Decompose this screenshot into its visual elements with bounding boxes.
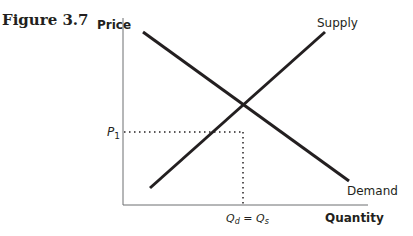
demand-curve [143, 32, 349, 181]
supply-demand-chart: Price Supply Demand Quantity P1 Qd = Qs [0, 0, 413, 236]
supply-label: Supply [317, 16, 358, 30]
svg-text:Qd = Qs: Qd = Qs [226, 212, 269, 226]
svg-text:P1: P1 [107, 125, 120, 141]
price-equilibrium-label: P1 [107, 125, 120, 141]
x-axis-label: Quantity [325, 211, 384, 225]
y-axis-label: Price [97, 18, 131, 32]
demand-label: Demand [347, 184, 398, 198]
quantity-equilibrium-label: Qd = Qs [226, 212, 269, 226]
